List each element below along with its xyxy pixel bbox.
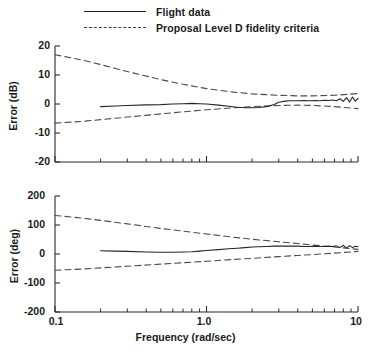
y-tick-label: 20 — [18, 40, 50, 51]
x-axis-title: Frequency (rad/sec) — [0, 331, 371, 343]
legend-label-flight-data: Flight data — [146, 6, 210, 18]
x-tick-label-2: 10 — [344, 315, 368, 327]
y-tick-label: -10 — [18, 127, 50, 138]
chart-magnitude-error — [0, 36, 371, 176]
phase-error-plot-area — [0, 186, 371, 326]
y-tick-label: 0 — [18, 98, 50, 109]
y-tick-label: -20 — [18, 156, 50, 167]
phase-y-axis-title: Error (deg) — [8, 218, 20, 294]
legend-item-flight-data: Flight data — [84, 4, 364, 20]
x-tick-label-0: 0.1 — [44, 315, 68, 327]
figure-container: Flight data Proposal Level D fidelity cr… — [0, 0, 371, 352]
magnitude-y-tick-labels: 20100-10-20 — [18, 36, 50, 176]
legend-label-criteria: Proposal Level D fidelity criteria — [146, 22, 319, 34]
chart-phase-error — [0, 186, 371, 326]
legend-line-dashed-icon — [84, 23, 146, 33]
legend-line-solid-icon — [84, 7, 146, 17]
magnitude-y-axis-title: Error (dB) — [7, 71, 19, 141]
y-tick-label: 10 — [18, 69, 50, 80]
magnitude-error-plot-area — [0, 36, 371, 176]
x-tick-label-1: 1.0 — [192, 315, 216, 327]
legend: Flight data Proposal Level D fidelity cr… — [84, 4, 364, 36]
legend-item-criteria: Proposal Level D fidelity criteria — [84, 20, 364, 36]
y-tick-label: 200 — [13, 190, 45, 201]
y-tick-label: -200 — [13, 306, 45, 317]
